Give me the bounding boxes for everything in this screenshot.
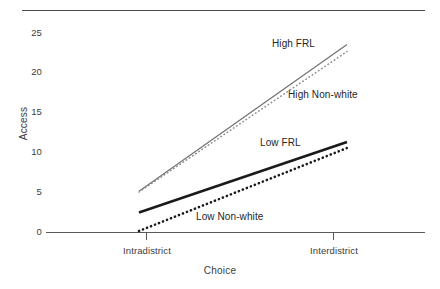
series-line-high-nonwhite xyxy=(139,52,347,193)
x-axis-title: Choice xyxy=(180,265,260,276)
x-tick-label-intradistrict: Intradistrict xyxy=(87,245,207,256)
x-tick-label-interdistrict: Interdistrict xyxy=(274,245,394,256)
y-tick-label-25: 25 xyxy=(20,27,42,38)
series-line-low-frl xyxy=(139,142,347,213)
figure-container: 25 20 15 10 5 0 Access Intradistrict Int… xyxy=(0,0,440,289)
series-label-low-frl: Low FRL xyxy=(260,137,301,148)
series-label-high-nonwhite: High Non-white xyxy=(288,89,358,100)
y-tick-label-20: 20 xyxy=(20,66,42,77)
y-axis-title: Access xyxy=(18,94,29,154)
series-label-high-frl: High FRL xyxy=(272,38,315,49)
series-label-low-nonwhite: Low Non-white xyxy=(196,211,263,222)
series-line-high-frl xyxy=(139,45,347,192)
y-tick-label-0: 0 xyxy=(20,226,42,237)
y-tick-label-5: 5 xyxy=(20,186,42,197)
